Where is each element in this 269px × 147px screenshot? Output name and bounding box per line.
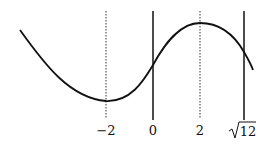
label-sqrt12: 12 (229, 122, 256, 139)
label-sqrt12-radicand: 12 (240, 124, 257, 139)
label-two: 2 (196, 123, 204, 138)
curve (20, 23, 253, 101)
label-zero: 0 (149, 123, 157, 138)
label-neg2: −2 (96, 123, 115, 138)
graph: −2 0 2 12 (0, 0, 269, 147)
